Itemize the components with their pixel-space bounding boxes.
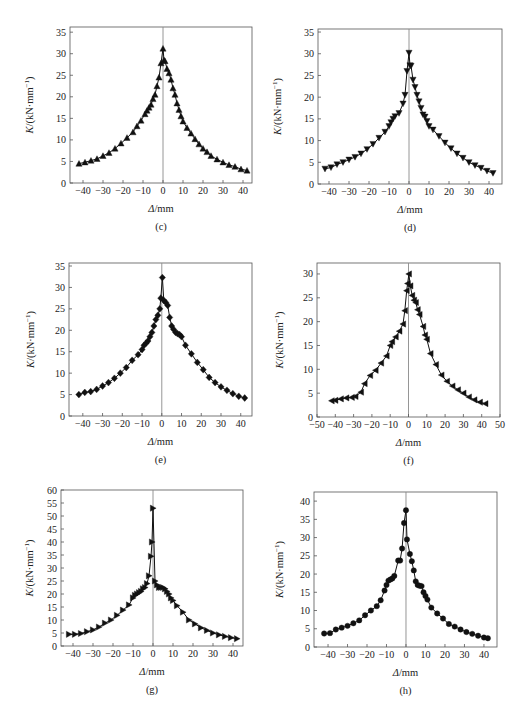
- x-tick-label: −10: [382, 419, 398, 430]
- x-tick-label: 0: [161, 185, 166, 196]
- y-tick-label: 25: [304, 70, 314, 81]
- y-axis-unit: /(kN·mm: [272, 89, 284, 128]
- data-point-circle: [321, 631, 326, 636]
- figure-stiffness-curves: −40−30−20−1001020304005101520253035Δ/mmK…: [0, 0, 524, 719]
- x-axis-title: Δ/mm: [395, 437, 421, 448]
- y-tick-label: 35: [55, 261, 65, 272]
- y-axis-unit-close: ): [272, 77, 284, 81]
- y-tick-label: 30: [56, 48, 66, 59]
- y-tick-label: 0: [309, 179, 314, 190]
- x-tick-label: 30: [208, 648, 218, 659]
- x-tick-label: 0: [151, 648, 156, 659]
- data-point-circle: [485, 636, 490, 641]
- y-tick-label: 25: [303, 292, 313, 303]
- x-tick-label: 10: [420, 649, 430, 660]
- x-axis-title: Δ/mm: [138, 666, 164, 677]
- x-tick-label: 10: [177, 418, 187, 429]
- x-tick-label: −10: [379, 649, 395, 660]
- x-axis-unit: /mm: [154, 436, 173, 447]
- x-tick-label: −20: [361, 186, 377, 197]
- x-tick-label: −40: [65, 648, 81, 659]
- x-tick-label: −40: [320, 649, 336, 660]
- x-tick-label: 20: [196, 418, 206, 429]
- panel-label: (c): [155, 221, 167, 233]
- y-axis-unit-close: ): [24, 539, 36, 543]
- y-tick-label: 10: [304, 135, 314, 146]
- data-point-circle: [411, 568, 416, 573]
- data-point-circle: [403, 508, 408, 513]
- x-tick-label: 20: [188, 648, 198, 659]
- x-axis-variable: Δ: [395, 437, 402, 448]
- panel-label: (h): [399, 685, 412, 697]
- x-tick-label: −10: [134, 418, 150, 429]
- x-tick-label: 0: [403, 649, 408, 660]
- x-tick-label: 30: [218, 185, 228, 196]
- y-tick-label: 25: [55, 303, 65, 314]
- y-tick-label: 0: [52, 641, 57, 652]
- data-point-circle: [362, 613, 367, 618]
- y-tick-label: 40: [47, 537, 57, 548]
- data-point-circle: [327, 630, 332, 635]
- x-tick-label: 40: [238, 185, 248, 196]
- x-axis-title: Δ/mm: [396, 204, 422, 215]
- data-point-circle: [345, 623, 350, 628]
- x-tick-label: 20: [198, 185, 208, 196]
- x-axis-unit: /mm: [145, 666, 164, 677]
- x-tick-label: 20: [440, 649, 450, 660]
- x-axis-variable: Δ: [147, 436, 154, 447]
- x-tick-label: −30: [85, 648, 101, 659]
- y-tick-label: 35: [56, 27, 66, 38]
- y-tick-label: 0: [308, 412, 313, 423]
- x-axis-unit: /mm: [399, 667, 418, 678]
- y-tick-label: 10: [55, 368, 65, 379]
- y-tick-label: 5: [308, 388, 313, 399]
- y-tick-label: 30: [55, 282, 65, 293]
- x-axis-title: Δ/mm: [147, 203, 173, 214]
- x-tick-label: 30: [459, 649, 469, 660]
- y-tick-label: 5: [305, 623, 310, 634]
- panel-label: (f): [403, 455, 414, 467]
- x-axis-variable: Δ: [392, 667, 399, 678]
- x-tick-label: −10: [125, 648, 141, 659]
- data-point-circle: [357, 618, 362, 623]
- x-tick-label: −30: [346, 419, 362, 430]
- y-axis-unit-close: ): [274, 311, 286, 315]
- x-axis-unit: /mm: [403, 204, 422, 215]
- y-tick-label: 10: [56, 134, 66, 145]
- x-tick-label: −20: [364, 419, 380, 430]
- data-point-circle: [392, 573, 397, 578]
- y-tick-label: 20: [300, 569, 310, 580]
- data-point-circle: [470, 631, 475, 636]
- panel-label: (d): [404, 222, 417, 234]
- data-point-circle: [407, 551, 412, 556]
- x-tick-label: −30: [340, 649, 356, 660]
- x-axis-unit: /mm: [154, 203, 173, 214]
- data-point-circle: [368, 608, 373, 613]
- y-tick-label: 35: [47, 550, 57, 561]
- y-tick-label: 50: [47, 511, 57, 522]
- y-tick-label: 10: [303, 364, 313, 375]
- y-tick-label: 45: [47, 524, 57, 535]
- data-point-circle: [464, 629, 469, 634]
- x-axis-variable: Δ: [138, 666, 145, 677]
- data-point-circle: [382, 588, 387, 593]
- x-axis-unit: /mm: [402, 437, 421, 448]
- x-axis-title: Δ/mm: [392, 667, 418, 678]
- x-tick-label: 50: [495, 419, 505, 430]
- y-tick-label: 15: [303, 340, 313, 351]
- y-tick-label: 20: [304, 92, 314, 103]
- y-axis-unit-close: ): [274, 540, 286, 544]
- x-tick-label: 20: [444, 186, 454, 197]
- x-tick-label: −30: [95, 185, 111, 196]
- y-axis-unit-close: ): [24, 76, 36, 80]
- x-tick-label: 20: [440, 419, 450, 430]
- x-tick-label: −30: [341, 186, 357, 197]
- x-tick-label: −40: [75, 185, 91, 196]
- y-tick-label: 20: [47, 589, 57, 600]
- y-tick-label: 30: [300, 532, 310, 543]
- x-tick-label: −10: [135, 185, 151, 196]
- x-tick-label: −40: [75, 418, 91, 429]
- y-tick-label: 15: [56, 113, 66, 124]
- data-point-circle: [339, 625, 344, 630]
- x-tick-label: 10: [422, 419, 432, 430]
